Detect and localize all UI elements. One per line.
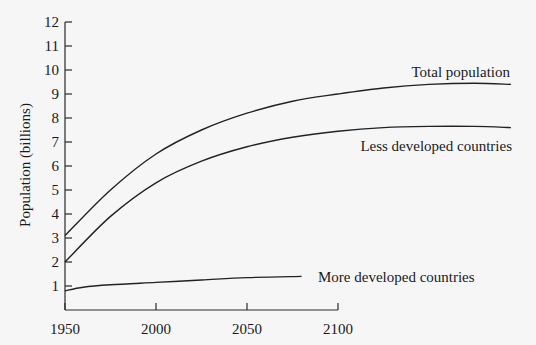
population-chart: 123456789101112 1950200020502100 Populat… [0, 0, 536, 345]
x-axis: 1950200020502100 [50, 303, 353, 337]
y-tick-label: 5 [52, 182, 60, 198]
plot-curves [65, 83, 511, 291]
y-tick-label: 1 [52, 278, 60, 294]
y-tick-label: 9 [52, 86, 60, 102]
y-tick-label: 10 [44, 62, 59, 78]
y-axis-title: Population (billions) [17, 103, 34, 227]
y-tick-label: 8 [52, 110, 60, 126]
x-tick-label: 2050 [232, 321, 262, 337]
label-less-developed: Less developed countries [360, 138, 512, 154]
curve-total-population [65, 83, 511, 235]
y-axis: 123456789101112 [44, 14, 72, 310]
curve-more-developed [65, 276, 302, 290]
y-tick-label: 12 [44, 14, 59, 30]
y-tick-label: 3 [52, 230, 60, 246]
x-tick-label: 2000 [141, 321, 171, 337]
y-tick-label: 2 [52, 254, 60, 270]
y-tick-label: 11 [45, 38, 59, 54]
x-tick-label: 1950 [50, 321, 80, 337]
y-tick-label: 4 [52, 206, 60, 222]
label-more-developed: More developed countries [318, 269, 475, 285]
y-tick-label: 7 [52, 134, 60, 150]
y-tick-label: 6 [52, 158, 60, 174]
x-tick-label: 2100 [323, 321, 353, 337]
label-total-population: Total population [411, 64, 510, 80]
